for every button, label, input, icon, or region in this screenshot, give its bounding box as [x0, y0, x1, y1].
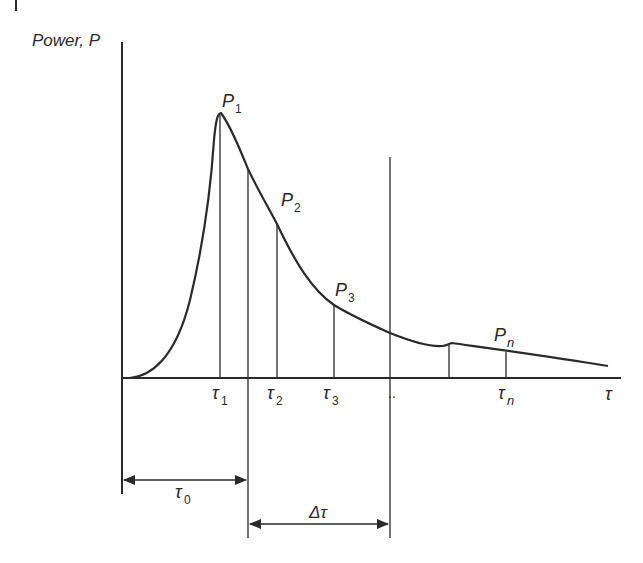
svg-text:τ: τ	[267, 383, 275, 403]
svg-text:1: 1	[235, 102, 242, 116]
tick-tau3: τ 3	[323, 383, 339, 408]
power-curve	[130, 113, 608, 378]
svg-text:τ: τ	[175, 482, 183, 502]
svg-text:τ: τ	[498, 383, 506, 403]
svg-text:τ: τ	[212, 383, 220, 403]
svg-text:Δτ: Δτ	[308, 503, 328, 522]
label-p2: P 2	[281, 190, 301, 215]
label-tau0: τ 0	[175, 482, 191, 507]
label-pn: P n	[494, 325, 514, 350]
svg-text:3: 3	[332, 394, 339, 408]
label-p1: P 1	[222, 91, 242, 116]
x-axis-label: τ	[605, 384, 613, 404]
svg-text:1: 1	[221, 394, 228, 408]
svg-text:τ: τ	[323, 383, 331, 403]
svg-text:3: 3	[348, 291, 355, 305]
svg-text:2: 2	[294, 201, 301, 215]
label-delta-tau: Δτ	[308, 503, 328, 522]
label-p3: P 3	[335, 280, 355, 305]
tick-ellipsis: ..	[388, 385, 396, 401]
tick-tau2: τ 2	[267, 383, 283, 408]
svg-text:n: n	[507, 335, 514, 350]
svg-text:P: P	[222, 91, 234, 111]
svg-text:n: n	[507, 393, 514, 408]
svg-text:P: P	[335, 280, 347, 300]
power-pulse-diagram: Power, P τ P 1 P 2 P 3 P n τ 1 τ 2 τ 3 .…	[0, 0, 643, 563]
svg-text:P: P	[281, 190, 293, 210]
y-axis-label: Power, P	[32, 31, 101, 50]
tick-tau1: τ 1	[212, 383, 228, 408]
svg-text:..: ..	[388, 385, 396, 401]
tick-taun: τ n	[498, 383, 514, 408]
svg-text:P: P	[494, 325, 506, 345]
svg-text:0: 0	[184, 493, 191, 507]
svg-text:2: 2	[276, 394, 283, 408]
